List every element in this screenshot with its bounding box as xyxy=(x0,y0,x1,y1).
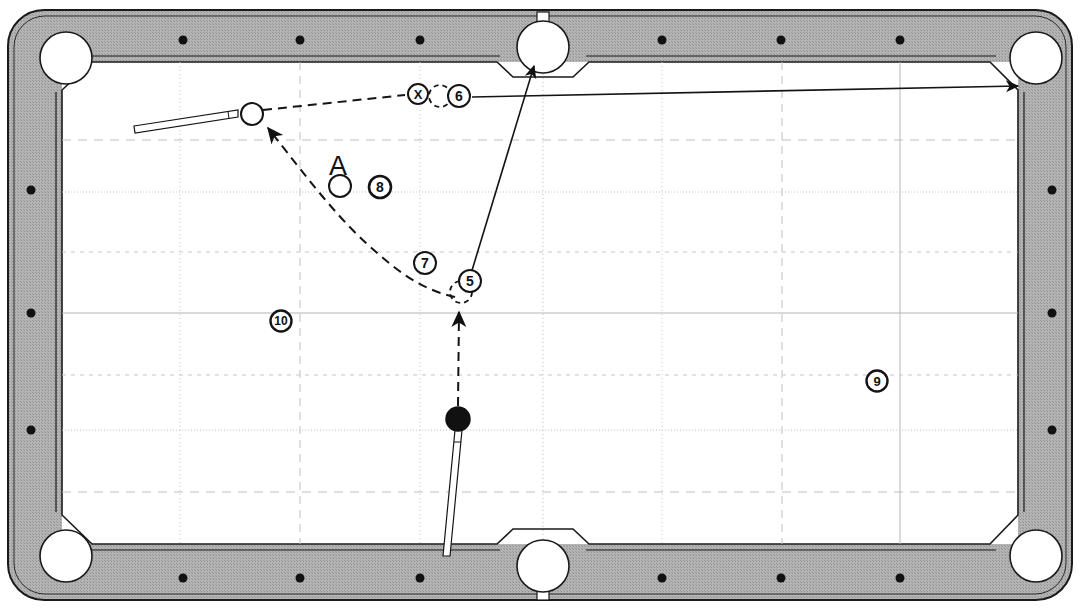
playing-surface xyxy=(56,56,1024,550)
pocket-bottom-left[interactable] xyxy=(40,530,92,582)
callout-10: 10 xyxy=(271,311,292,332)
diamond-right-1 xyxy=(1048,186,1057,195)
marker-x: X xyxy=(408,84,428,104)
diamond-bottom-6 xyxy=(896,574,905,583)
callout-9-text: 9 xyxy=(873,374,880,389)
callout-5-text: 5 xyxy=(466,273,474,289)
callout-8-text: 8 xyxy=(376,179,384,195)
diamond-right-3 xyxy=(1048,426,1057,435)
diamond-left-3 xyxy=(27,426,36,435)
object-ball[interactable] xyxy=(446,407,470,431)
diagram-canvas: X 6 5 7 8 9 xyxy=(0,0,1080,609)
diamond-top-5 xyxy=(777,36,786,45)
diamond-left-1 xyxy=(27,186,36,195)
callout-7: 7 xyxy=(414,252,436,274)
diamond-top-6 xyxy=(896,36,905,45)
diamond-right-2 xyxy=(1048,309,1057,318)
diamond-top-1 xyxy=(179,36,188,45)
diamond-bottom-2 xyxy=(296,574,305,583)
cue-ball[interactable] xyxy=(241,103,263,125)
diamond-bottom-4 xyxy=(658,574,667,583)
diamond-top-2 xyxy=(296,36,305,45)
callout-6: 6 xyxy=(448,85,470,107)
cushion-outline xyxy=(62,62,1018,544)
diamond-bottom-3 xyxy=(416,574,425,583)
callout-10-text: 10 xyxy=(274,314,288,328)
pool-table-diagram: X 6 5 7 8 9 xyxy=(0,0,1080,609)
pocket-bottom-right[interactable] xyxy=(1010,530,1062,582)
callout-9: 9 xyxy=(867,371,888,392)
diamond-bottom-1 xyxy=(179,574,188,583)
callout-8: 8 xyxy=(369,176,391,198)
callout-6-text: 6 xyxy=(455,88,463,104)
callout-7-text: 7 xyxy=(421,255,429,271)
pocket-top-right[interactable] xyxy=(1010,32,1062,84)
pocket-bottom-middle[interactable] xyxy=(517,540,569,592)
pocket-top-left[interactable] xyxy=(40,32,92,84)
marker-x-text: X xyxy=(414,87,423,102)
callout-5: 5 xyxy=(459,270,481,292)
diamond-top-4 xyxy=(658,36,667,45)
diamond-top-3 xyxy=(416,36,425,45)
pocket-top-middle[interactable] xyxy=(517,21,569,73)
diamond-bottom-5 xyxy=(777,574,786,583)
label-a: A xyxy=(329,151,347,181)
diamond-left-2 xyxy=(27,309,36,318)
